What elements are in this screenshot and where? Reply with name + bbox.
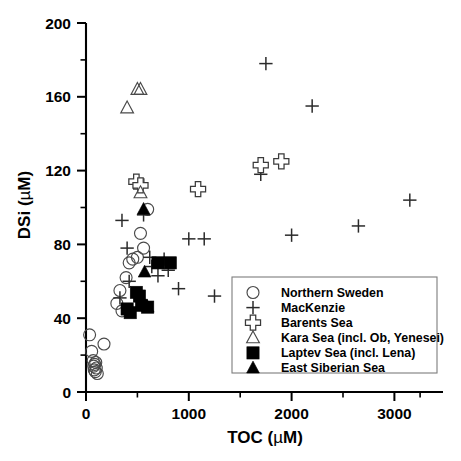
x-axis-ticks [86,392,420,401]
x-tick-label: 1000 [172,405,206,422]
data-point [137,202,150,214]
y-axis-title-end: M) [15,171,34,191]
legend-item-label: Kara Sea (incl. Ob, Yenesei) [281,331,444,345]
scatter-plot-figure: 04080120160200 0100020003000 TOC (µM) DS… [0,0,461,461]
legend: Northern SwedenMacKenzieBarents SeaKara … [232,277,444,375]
data-point [98,338,110,350]
y-axis-title-mu: µ [15,190,34,200]
legend-marker-square-filled [247,347,259,359]
data-point [182,232,195,245]
x-axis-title: TOC (µM) [227,428,303,447]
data-point [124,307,136,319]
y-axis-title-main: DSi ( [15,200,34,239]
data-point [123,257,135,269]
series-barents-sea [129,154,289,197]
data-point [259,57,272,70]
x-axis-title-main: TOC ( [227,428,273,447]
legend-item-label: Barents Sea [281,316,353,330]
x-axis-tick-labels: 0100020003000 [82,405,412,422]
y-tick-label: 80 [54,236,71,253]
data-point [135,227,147,239]
x-axis-title-end: M) [283,428,303,447]
x-axis-title-mu: µ [273,428,283,447]
legend-item-label: Northern Sweden [281,286,384,300]
data-point [208,289,221,302]
data-point [274,154,289,169]
legend-item-label: East Siberian Sea [281,361,385,375]
legend-item-label: Laptev Sea (incl. Lena) [281,346,415,360]
data-point [115,214,128,227]
y-axis-ticks [77,23,86,392]
y-tick-label: 160 [45,88,71,105]
y-axis-tick-labels: 04080120160200 [45,15,71,401]
y-tick-label: 120 [45,162,71,179]
legend-item-label: MacKenzie [281,301,345,315]
data-point [352,219,365,232]
y-axis-title: DSi (µM) [15,171,34,239]
data-point [121,101,134,113]
data-point [138,242,150,254]
y-tick-label: 40 [54,310,71,327]
x-tick-label: 3000 [377,405,411,422]
data-point [253,158,268,173]
data-point [285,229,298,242]
x-tick-label: 2000 [274,405,308,422]
data-point [191,182,206,197]
data-point [305,99,318,112]
data-point [151,269,164,282]
data-point [164,257,176,269]
data-point [198,232,211,245]
y-tick-label: 200 [45,15,71,32]
data-point [403,193,416,206]
x-tick-label: 0 [82,405,91,422]
data-point [152,257,164,269]
chart-canvas: 04080120160200 0100020003000 TOC (µM) DS… [0,0,461,461]
y-tick-label: 0 [62,384,71,401]
data-point [172,282,185,295]
